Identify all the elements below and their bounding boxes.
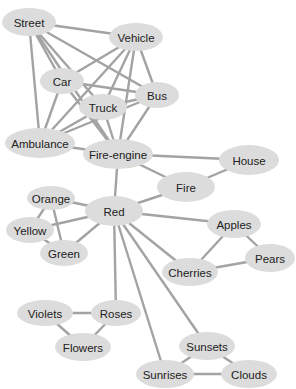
node-label: Clouds <box>231 369 267 381</box>
node-label: Roses <box>100 308 133 320</box>
node-pears: Pears <box>245 244 295 272</box>
node-label: Street <box>14 17 45 29</box>
node-label: Sunsets <box>186 341 228 353</box>
node-label: Fire-engine <box>89 149 147 161</box>
node-sunsets: Sunsets <box>179 332 235 360</box>
node-label: Ambulance <box>11 138 69 150</box>
node-roses: Roses <box>91 300 141 326</box>
graph-canvas: StreetVehicleCarBusTruckAmbulanceFire-en… <box>0 0 296 389</box>
node-street: Street <box>2 8 56 36</box>
node-label: Red <box>103 206 124 218</box>
node-vehicle: Vehicle <box>109 23 163 51</box>
node-car: Car <box>40 68 84 94</box>
node-label: Truck <box>89 102 118 114</box>
node-label: Vehicle <box>117 32 154 44</box>
node-red: Red <box>85 196 143 226</box>
node-label: Pears <box>255 253 285 265</box>
node-label: Violets <box>28 308 63 320</box>
node-cherries: Cherries <box>162 258 218 286</box>
edge-red-sunrises <box>114 211 165 374</box>
node-sunrises: Sunrises <box>136 360 194 388</box>
node-label: Yellow <box>14 225 48 237</box>
node-house: House <box>219 145 279 175</box>
node-label: Flowers <box>63 342 104 354</box>
node-ambulance: Ambulance <box>5 128 75 158</box>
node-fire-engine: Fire-engine <box>83 139 153 169</box>
node-flowers: Flowers <box>55 333 111 361</box>
node-label: Sunrises <box>143 369 188 381</box>
node-label: House <box>232 155 265 167</box>
edge-red-roses <box>114 211 116 313</box>
node-layer: StreetVehicleCarBusTruckAmbulanceFire-en… <box>2 8 295 388</box>
semantic-network-diagram: StreetVehicleCarBusTruckAmbulanceFire-en… <box>0 0 296 389</box>
node-label: Bus <box>147 90 167 102</box>
node-violets: Violets <box>17 300 73 326</box>
node-clouds: Clouds <box>221 360 277 388</box>
node-apples: Apples <box>207 210 261 238</box>
node-fire: Fire <box>157 172 215 202</box>
node-label: Orange <box>32 193 70 205</box>
node-label: Fire <box>176 182 196 194</box>
node-label: Car <box>53 76 72 88</box>
node-label: Apples <box>216 219 251 231</box>
node-orange: Orange <box>27 186 75 210</box>
node-label: Green <box>48 248 80 260</box>
node-truck: Truck <box>79 94 127 120</box>
node-yellow: Yellow <box>6 217 54 243</box>
node-label: Cherries <box>168 267 212 279</box>
node-green: Green <box>40 240 88 266</box>
node-bus: Bus <box>135 82 179 108</box>
